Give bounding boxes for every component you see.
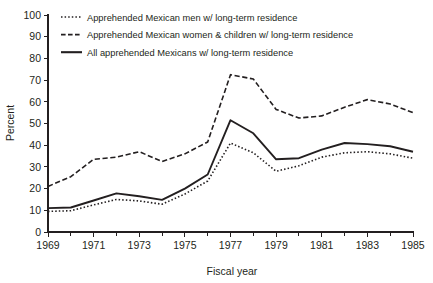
x-axis: 196919711973197519771979198119831985 <box>36 232 425 251</box>
chart-container: 0102030405060708090100 19691971197319751… <box>0 0 433 283</box>
chart-legend: Apprehended Mexican men w/ long-term res… <box>61 13 353 58</box>
y-axis-tick-label: 50 <box>29 117 41 129</box>
x-axis-tick-label: 1983 <box>356 239 380 251</box>
y-axis-tick-label: 90 <box>29 30 41 42</box>
y-axis-tick-label: 70 <box>29 74 41 86</box>
line-chart: 0102030405060708090100 19691971197319751… <box>0 0 433 283</box>
legend-label: Apprehended Mexican women & children w/ … <box>87 30 353 40</box>
x-axis-tick-label: 1981 <box>310 239 334 251</box>
y-axis-title: Percent <box>4 105 16 141</box>
y-axis-tick-label: 80 <box>29 52 41 64</box>
legend-label: All apprehended Mexicans w/ long-term re… <box>87 48 293 58</box>
y-axis-tick-label: 10 <box>29 204 41 216</box>
y-axis-tick-label: 20 <box>29 182 41 194</box>
x-axis-tick-label: 1975 <box>173 239 197 251</box>
x-axis-tick-label: 1971 <box>82 239 106 251</box>
series-line-solid <box>48 120 413 208</box>
series-lines <box>48 75 413 212</box>
y-axis-tick-label: 100 <box>23 9 41 21</box>
y-axis-tick-label: 60 <box>29 96 41 108</box>
x-axis-tick-label: 1977 <box>219 239 243 251</box>
y-axis-tick-label: 40 <box>29 139 41 151</box>
y-axis: 0102030405060708090100 <box>23 9 48 238</box>
x-axis-tick-label: 1985 <box>401 239 425 251</box>
y-axis-tick-label: 0 <box>35 226 41 238</box>
x-axis-tick-label: 1979 <box>264 239 288 251</box>
series-line-dotted <box>48 143 413 211</box>
legend-label: Apprehended Mexican men w/ long-term res… <box>87 13 297 23</box>
x-axis-tick-label: 1969 <box>36 239 60 251</box>
x-axis-title: Fiscal year <box>207 265 258 277</box>
y-axis-tick-label: 30 <box>29 161 41 173</box>
series-line-dashed <box>48 75 413 187</box>
x-axis-tick-label: 1973 <box>128 239 152 251</box>
